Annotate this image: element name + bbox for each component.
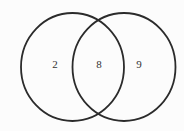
venn-diagram: 2 8 9 xyxy=(0,0,184,131)
left-region-value: 2 xyxy=(52,58,58,70)
right-region-value: 9 xyxy=(136,58,142,70)
intersection-region-value: 8 xyxy=(96,58,102,70)
venn-svg: 2 8 9 xyxy=(0,0,184,131)
